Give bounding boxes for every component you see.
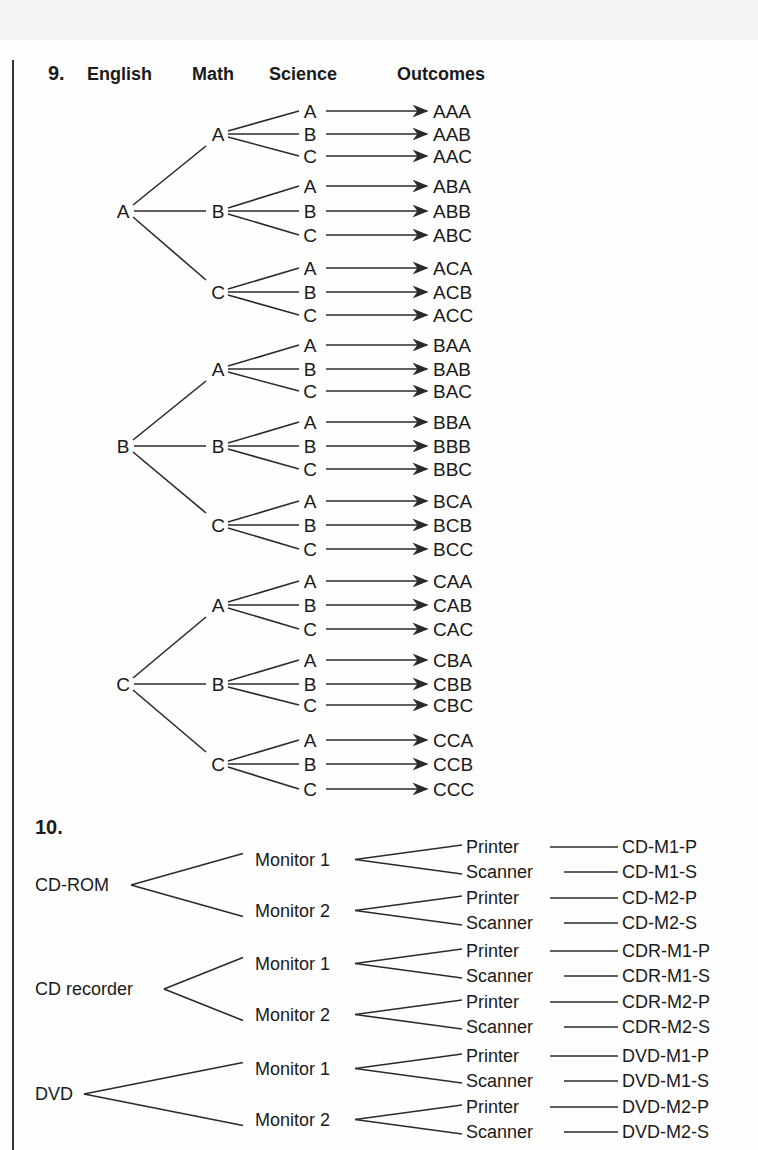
branch-line: [355, 911, 462, 926]
branch-line: [228, 422, 299, 443]
peripheral-label: Printer: [466, 1046, 519, 1066]
science-node: C: [303, 779, 317, 800]
science-node: B: [304, 436, 317, 457]
science-node: B: [304, 282, 317, 303]
branch-line: [84, 1063, 243, 1095]
outcome-label: BCB: [433, 515, 472, 536]
math-node: A: [212, 124, 225, 145]
drive-node: CD-ROM: [35, 875, 109, 895]
science-node: C: [303, 381, 317, 402]
outcome-label: BCC: [433, 539, 473, 560]
outcome-label: CAB: [433, 595, 472, 616]
branch-line: [355, 1054, 462, 1069]
branch-line: [355, 860, 462, 875]
tree-problem-10: Monitor 1PrinterCD-M1-PScannerCD-M1-SMon…: [35, 837, 710, 1142]
branch-line: [133, 146, 206, 205]
branch-line: [355, 1015, 462, 1030]
monitor-node: Monitor 1: [255, 954, 330, 974]
outcome-label: ACA: [433, 258, 472, 279]
branch-line: [355, 949, 462, 964]
peripheral-label: Scanner: [466, 1017, 533, 1037]
outcome-label: CDR-M1-S: [622, 966, 710, 986]
branch-line: [355, 1000, 462, 1015]
peripheral-label: Printer: [466, 837, 519, 857]
header-english: English: [87, 64, 152, 84]
outcome-label: BAC: [433, 381, 472, 402]
science-node: A: [304, 730, 317, 751]
math-node: C: [211, 754, 225, 775]
outcome-label: CD-M1-S: [622, 862, 697, 882]
peripheral-label: Scanner: [466, 1122, 533, 1142]
branch-line: [228, 767, 299, 789]
peripheral-label: Scanner: [466, 1071, 533, 1091]
header-outcomes: Outcomes: [397, 64, 485, 84]
outcome-label: CBC: [433, 695, 473, 716]
science-node: B: [304, 754, 317, 775]
monitor-node: Monitor 1: [255, 1059, 330, 1079]
outcome-label: ACC: [433, 305, 473, 326]
monitor-node: Monitor 2: [255, 1110, 330, 1130]
outcome-label: AAA: [433, 101, 471, 122]
science-node: C: [303, 459, 317, 480]
drive-node: CD recorder: [35, 979, 133, 999]
outcome-label: DVD-M1-P: [622, 1046, 709, 1066]
outcome-label: CDR-M1-P: [622, 941, 710, 961]
math-node: B: [212, 436, 225, 457]
branch-line: [355, 964, 462, 979]
outcome-label: BAB: [433, 359, 471, 380]
branch-line: [228, 660, 299, 681]
branch-line: [228, 581, 299, 602]
science-node: A: [304, 176, 317, 197]
math-node: B: [212, 201, 225, 222]
science-node: B: [304, 359, 317, 380]
branch-line: [228, 449, 299, 469]
branch-line: [228, 528, 299, 549]
monitor-node: Monitor 2: [255, 1005, 330, 1025]
science-node: C: [303, 225, 317, 246]
branch-line: [355, 1105, 462, 1120]
branch-line: [133, 217, 206, 280]
outcome-label: BAA: [433, 335, 471, 356]
branch-line: [228, 111, 299, 131]
branch-line: [355, 845, 462, 860]
math-node: C: [211, 515, 225, 536]
outcome-label: BCA: [433, 491, 472, 512]
branch-line: [355, 1069, 462, 1084]
branch-line: [228, 268, 299, 289]
branch-line: [228, 372, 299, 391]
english-node: C: [116, 674, 130, 695]
branch-line: [355, 896, 462, 911]
outcome-label: ACB: [433, 282, 472, 303]
math-node: A: [212, 359, 225, 380]
branch-line: [131, 885, 243, 917]
science-node: C: [303, 305, 317, 326]
outcome-label: CDR-M2-S: [622, 1017, 710, 1037]
science-node: B: [304, 201, 317, 222]
problem-10-number: 10.: [35, 816, 63, 838]
branch-line: [228, 137, 299, 156]
science-node: B: [304, 674, 317, 695]
branch-line: [228, 501, 299, 522]
math-node: A: [212, 595, 225, 616]
outcome-label: CAA: [433, 571, 472, 592]
problem-9-number: 9.: [48, 62, 65, 84]
english-node: A: [117, 201, 130, 222]
branch-line: [228, 687, 299, 705]
drive-node: DVD: [35, 1084, 73, 1104]
monitor-node: Monitor 1: [255, 850, 330, 870]
outcome-label: DVD-M2-S: [622, 1122, 709, 1142]
peripheral-label: Printer: [466, 1097, 519, 1117]
outcome-label: CDR-M2-P: [622, 992, 710, 1012]
monitor-node: Monitor 2: [255, 901, 330, 921]
tree-problem-9: AAAAABAABCAACBAABABABBCABCCAACABACBCACCA…: [116, 101, 474, 800]
english-node: B: [117, 436, 130, 457]
science-node: A: [304, 412, 317, 433]
outcome-label: ABA: [433, 176, 471, 197]
branch-line: [228, 295, 299, 315]
branch-line: [228, 345, 299, 366]
science-node: B: [304, 124, 317, 145]
science-node: C: [303, 619, 317, 640]
outcome-label: CD-M2-S: [622, 913, 697, 933]
outcome-label: ABB: [433, 201, 471, 222]
science-node: A: [304, 101, 317, 122]
